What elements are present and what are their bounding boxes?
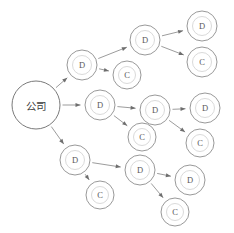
node-d_top3[interactable]: D — [187, 11, 217, 41]
node-c_bot[interactable]: C — [86, 181, 114, 209]
edge-root-to-d_top — [56, 78, 67, 88]
node-d_bot2[interactable]: D — [125, 155, 155, 185]
node-c_bot3[interactable]: C — [161, 198, 189, 226]
node-label: D — [187, 175, 193, 185]
node-label: D — [97, 100, 103, 110]
edge-d_top2-to-d_top3 — [162, 30, 183, 36]
edge-d_mid2-to-d_mid3 — [172, 107, 185, 111]
node-c_top[interactable]: C — [113, 61, 141, 89]
arrowhead-icon — [180, 107, 185, 111]
node-label: C — [139, 132, 145, 142]
node-label: C — [97, 190, 103, 200]
node-d_bot[interactable]: D — [60, 145, 90, 175]
node-d_mid3[interactable]: D — [190, 93, 220, 123]
node-label: C — [199, 57, 205, 67]
edge-d_mid-to-c_mid — [114, 116, 127, 126]
node-label: D — [79, 60, 85, 70]
edge-d_top2-to-c_top3 — [161, 46, 183, 55]
tree-diagram: 公司DCDDCDDCDCDCDDC — [0, 0, 234, 233]
node-label: 公司 — [26, 100, 46, 112]
arrowhead-icon — [76, 103, 81, 107]
node-c_mid[interactable]: C — [128, 123, 156, 151]
node-d_mid[interactable]: D — [85, 90, 115, 120]
node-d_bot3[interactable]: D — [175, 165, 205, 195]
arrowhead-icon — [121, 47, 126, 51]
node-label: D — [199, 21, 205, 31]
node-d_top[interactable]: D — [67, 50, 97, 80]
edge-d_bot2-to-c_bot3 — [151, 183, 163, 197]
edge-d_top-to-c_top — [99, 68, 109, 72]
node-label: C — [124, 70, 130, 80]
edge-d_bot-to-d_bot2 — [92, 163, 120, 169]
node-layer: 公司DCDDCDDCDCDCDDC — [12, 11, 220, 226]
node-label: C — [172, 207, 178, 217]
edge-d_bot2-to-d_bot3 — [157, 173, 171, 177]
node-d_mid2[interactable]: D — [140, 95, 170, 125]
diagram-canvas: 公司DCDDCDDCDCDCDDC — [0, 0, 234, 233]
edge-d_mid2-to-c_mid3 — [169, 120, 185, 132]
arrowhead-icon — [85, 175, 90, 180]
arrowhead-icon — [180, 127, 185, 132]
edge-d_bot-to-c_bot — [85, 174, 90, 180]
node-label: C — [197, 138, 203, 148]
node-label: D — [72, 155, 78, 165]
node-label: D — [152, 105, 158, 115]
arrowhead-icon — [122, 121, 127, 126]
node-label: D — [137, 165, 143, 175]
edge-d_mid-to-d_mid2 — [117, 106, 135, 110]
arrowhead-icon — [115, 164, 120, 168]
node-label: D — [202, 103, 208, 113]
arrowhead-icon — [59, 139, 64, 144]
node-root[interactable]: 公司 — [12, 81, 60, 129]
edge-root-to-d_bot — [51, 127, 63, 144]
edge-d_top-to-d_top2 — [98, 47, 127, 58]
node-c_top3[interactable]: C — [187, 47, 217, 77]
node-d_top2[interactable]: D — [130, 25, 160, 55]
arrowhead-icon — [178, 51, 183, 55]
arrowhead-icon — [104, 68, 109, 72]
arrowhead-icon — [166, 173, 171, 177]
node-label: D — [142, 35, 148, 45]
edge-root-to-d_mid — [63, 103, 81, 107]
node-c_mid3[interactable]: C — [186, 129, 214, 157]
